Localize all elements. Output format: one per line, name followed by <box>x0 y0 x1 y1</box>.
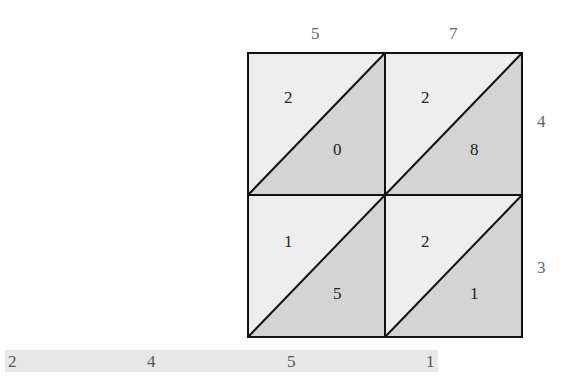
cell-tens-digit: 2 <box>421 89 430 106</box>
cell-ones-digit: 8 <box>470 141 479 158</box>
result-digit: 2 <box>8 353 17 370</box>
top-digit: 7 <box>449 25 458 42</box>
right-digit: 4 <box>537 113 546 130</box>
lattice-grid <box>0 0 565 384</box>
cell-ones-digit: 1 <box>470 285 479 302</box>
cell-tens-digit: 2 <box>421 233 430 250</box>
cell-ones-digit: 5 <box>333 285 342 302</box>
right-digit: 3 <box>537 259 546 276</box>
cell-ones-digit: 0 <box>333 141 342 158</box>
result-digit: 1 <box>426 353 435 370</box>
result-strip: 2 4 5 1 <box>5 350 438 372</box>
result-digit: 4 <box>147 353 156 370</box>
cell-tens-digit: 2 <box>284 89 293 106</box>
result-digit: 5 <box>287 353 296 370</box>
top-digit: 5 <box>311 25 320 42</box>
cell-tens-digit: 1 <box>284 233 293 250</box>
